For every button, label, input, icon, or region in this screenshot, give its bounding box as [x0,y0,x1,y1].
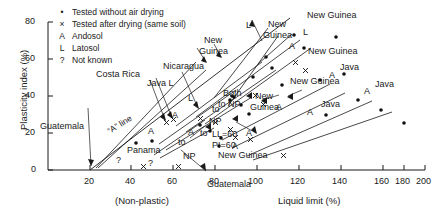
label-a-8: A [329,71,335,80]
y-axis-title: Plasticity index (%) [18,50,29,130]
x-tick-20: 20 [84,177,94,186]
label-new-guinea-2b: Guinea [263,31,292,40]
label-to-2: to [200,129,208,138]
label-new-guinea-4: New Guinea [308,47,358,56]
label-guatemala-bottom: Guatemala [207,180,251,189]
label-new-guinea-7: New Guinea [218,151,268,160]
label-a-5: A [246,129,252,138]
legend-label-a: Andosol [72,32,103,41]
label-a-9: A [364,87,370,96]
label-q-1: ? [116,156,121,165]
label-a-2: A [188,128,194,137]
label-l-3: L [303,28,308,37]
legend-symbol-l: L [57,44,67,53]
label-to-1: to [212,105,220,114]
label-new-guinea-3: New Guinea [307,11,357,20]
label-q-2: ? [148,159,153,168]
label-to-np-1: to NP [218,100,241,109]
label-java-2: Java [375,80,394,89]
x-tick-60: 60 [167,177,177,186]
label-a-1: A [172,111,178,120]
label-new-guinea-1a: New [204,36,222,45]
x-axis-title: Liquid limit (%) [278,196,340,206]
x-tick-140: 140 [332,177,347,186]
x-tick-200: 200 [416,177,431,186]
label-a-10: A [307,108,313,117]
label-panama: Panama [127,146,161,155]
label-nicaragua: Nicaragua [163,62,204,71]
legend-label-dot: Tested without air drying [72,8,164,17]
label-l-1: L [246,21,251,30]
label-a-6: A [276,103,282,112]
y-tick-0: 0 [31,165,36,174]
x-tick-160: 160 [374,177,389,186]
label-guatemala-left: Guatemala [40,122,84,131]
non-plastic-note: (Non-plastic) [115,196,169,206]
label-a-3: A [148,127,154,136]
legend-symbol-a: A [57,32,67,41]
label-new-guinea-6b: Guinea [250,103,279,112]
legend-symbol-q: ? [57,56,67,65]
label-both: Both [223,89,242,98]
legend-symbol-cross: × [57,20,67,29]
label-new-guinea-6a: New [255,92,273,101]
legend-label-cross: Tested after drying (same soil) [72,20,186,29]
label-a-4: A [232,142,238,151]
legend-symbol-dot: • [57,8,67,17]
x-tick-40: 40 [125,177,135,186]
label-java-3: Java [321,100,340,109]
label-np-1: NP [209,117,222,126]
y-tick-80: 80 [25,17,35,26]
label-np-bottom: NP [183,152,196,161]
legend-label-q: Not known [72,56,112,65]
plasticity-chart: • Tested without air drying × Tested aft… [0,0,433,215]
label-new-guinea-2a: New [268,20,286,29]
label-costa-rica: Costa Rica [96,70,140,79]
label-new-guinea-1b: Guinea [199,47,228,56]
label-a-7: A [289,42,295,51]
label-ll60: LL=60 [212,130,237,139]
legend-label-l: Latosol [72,44,99,53]
label-java-1: Java [340,63,359,72]
label-to-3: to [178,138,186,147]
label-l-2: L [188,94,193,103]
label-java-l: Java L [147,79,174,88]
x-tick-180: 180 [395,177,410,186]
x-tick-120: 120 [290,177,305,186]
